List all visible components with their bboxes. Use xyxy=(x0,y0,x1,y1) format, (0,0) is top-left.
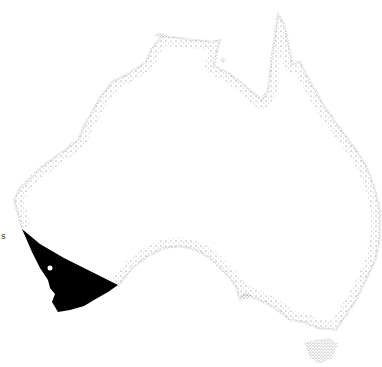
tasmania xyxy=(304,338,338,364)
edge-text-fragment: s xyxy=(1,231,6,241)
australia-map xyxy=(0,0,382,367)
mainland-stipple xyxy=(0,0,382,367)
white-dot-marker xyxy=(48,266,53,271)
